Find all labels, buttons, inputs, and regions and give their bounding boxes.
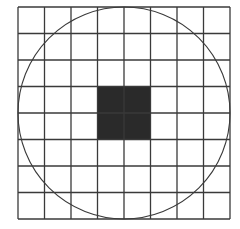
grid-circle-diagram (0, 0, 240, 229)
